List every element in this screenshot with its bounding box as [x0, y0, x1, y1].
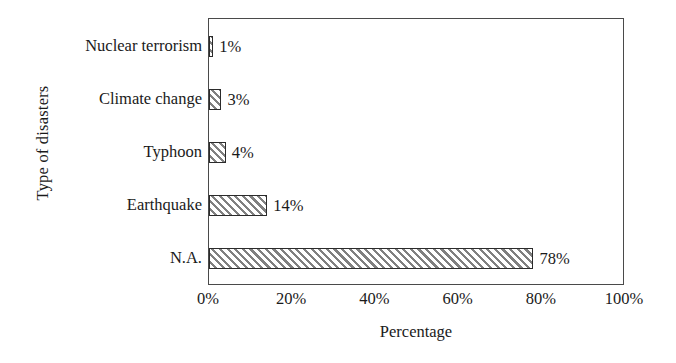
- bar-value-label: 14%: [273, 198, 303, 215]
- y-tick-label: N.A.: [42, 250, 202, 267]
- y-tick-label: Earthquake: [42, 197, 202, 214]
- x-tick-label: 60%: [418, 291, 498, 308]
- x-tick-label: 20%: [251, 291, 331, 308]
- plot-area: [208, 18, 624, 285]
- bar-value-label: 3%: [227, 92, 249, 109]
- bar-climate-change: [209, 89, 221, 110]
- y-tick-label: Climate change: [42, 91, 202, 108]
- bar-chart: Type of disasters Nuclear terrorism Clim…: [0, 0, 676, 363]
- y-tick-label: Nuclear terrorism: [42, 38, 202, 55]
- bar-value-label: 1%: [219, 39, 241, 56]
- x-tick-label: 80%: [501, 291, 581, 308]
- x-tick-label: 100%: [584, 291, 664, 308]
- x-axis-title: Percentage: [316, 322, 516, 342]
- bar-value-label: 4%: [232, 145, 254, 162]
- x-tick-label: 40%: [334, 291, 414, 308]
- bar-earthquake: [209, 195, 267, 216]
- bar-typhoon: [209, 142, 226, 163]
- bar-nuclear-terrorism: [209, 36, 213, 57]
- bar-na: [209, 248, 533, 269]
- x-tick-label: 0%: [168, 291, 248, 308]
- x-axis-tick-labels: 0% 20% 40% 60% 80% 100%: [0, 291, 676, 315]
- bar-value-label: 78%: [539, 251, 569, 268]
- y-tick-label: Typhoon: [42, 144, 202, 161]
